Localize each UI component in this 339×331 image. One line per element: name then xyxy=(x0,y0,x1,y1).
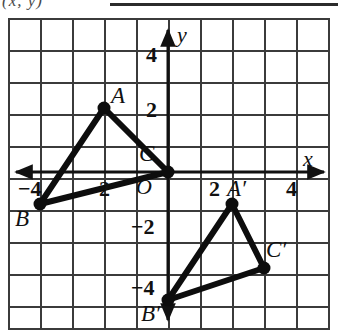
vertex-b-prime xyxy=(162,294,175,307)
coordinate-grid xyxy=(8,18,330,330)
y-axis-label: y xyxy=(177,24,187,46)
point-label-a: A xyxy=(111,84,125,107)
x-tick-label-neg4: −4 xyxy=(18,178,42,200)
x-tick-label-2: 2 xyxy=(209,178,220,200)
point-label-b: B xyxy=(15,207,29,230)
x-tick-label-4: 4 xyxy=(286,178,297,200)
point-label-c-prime: C′ xyxy=(266,238,286,261)
y-tick-label-neg2: −2 xyxy=(131,216,155,238)
x-axis-label: x xyxy=(303,148,313,170)
y-tick-label-4: 4 xyxy=(146,44,157,66)
point-label-c: C xyxy=(139,142,154,165)
vertex-a xyxy=(98,102,111,115)
plot-overlay xyxy=(8,18,330,330)
triangle-a-prime-b-prime-c-prime xyxy=(168,204,264,300)
figure-canvas: (x, y) xyxy=(0,0,339,331)
cropped-header-text: (x, y) xyxy=(2,0,43,11)
x-tick-label-neg2: 2 xyxy=(99,178,110,200)
point-label-b-prime: B′ xyxy=(141,302,160,325)
vertex-c xyxy=(162,166,175,179)
vertex-c-prime xyxy=(258,262,271,275)
y-tick-label-2: 2 xyxy=(146,99,157,121)
top-rule-divider xyxy=(110,3,338,6)
point-label-a-prime: A′ xyxy=(227,177,246,200)
y-tick-label-neg4: −4 xyxy=(131,277,155,299)
origin-label: O xyxy=(136,176,152,198)
